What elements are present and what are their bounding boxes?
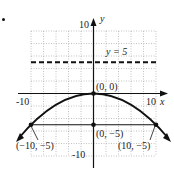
x-max-tick-label: 10 [146, 97, 156, 107]
x-min-tick-label: -10 [16, 97, 29, 107]
left-point-label: (−10, −5) [16, 141, 54, 151]
point-right [154, 122, 159, 127]
right-point-label: (10, −5) [118, 141, 150, 151]
point-focus [91, 122, 96, 127]
leader-left [31, 126, 38, 140]
y-min-tick-label: -10 [72, 150, 85, 160]
y-axis-label: y [100, 14, 104, 24]
y-max-tick-label: 10 [79, 20, 89, 30]
directrix-label: y = 5 [106, 47, 127, 57]
y-axis-arrow-icon [91, 18, 97, 26]
x-axis-label: x [160, 97, 164, 107]
focus-label: (0, −5) [96, 129, 123, 139]
vertex-label: (0, 0) [96, 82, 118, 92]
leader-right [150, 126, 155, 140]
